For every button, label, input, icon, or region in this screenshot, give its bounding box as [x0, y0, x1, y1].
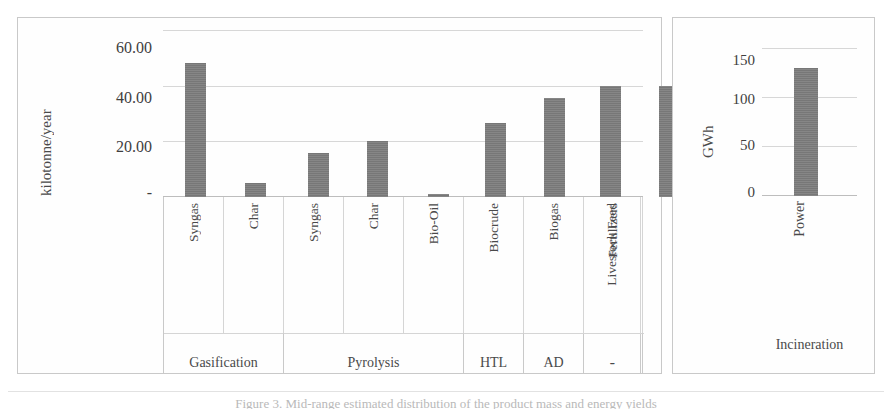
caption-divider — [8, 391, 884, 392]
col-label: Syngas — [186, 203, 202, 242]
left-ytick-20: 20.00 — [60, 139, 152, 155]
left-plot-area — [163, 30, 643, 197]
gridline-60 — [163, 30, 643, 31]
label-power: Power — [792, 201, 808, 237]
figure-caption: Figure 3. Mid-range estimated distributi… — [0, 396, 892, 409]
col-biogas: Biogas — [524, 197, 584, 333]
bar-char-pyrolysis — [367, 141, 388, 197]
group-pyrolysis: Pyrolysis — [284, 333, 464, 374]
group-dash-2: - — [583, 333, 643, 374]
right-plot-area — [762, 48, 857, 196]
left-ytick-0: - — [60, 185, 152, 201]
col-bio-oil: Bio-Oil — [404, 197, 464, 333]
gridline-150 — [762, 48, 857, 49]
left-ytick-60: 60.00 — [60, 40, 152, 56]
left-category-table: Syngas Char Syngas Char Bio-Oil Biocrude… — [163, 197, 643, 374]
gridline-40 — [163, 86, 643, 87]
col-biocrude: Biocrude — [464, 197, 524, 333]
process-group-row: Gasification Pyrolysis HTL AD - — [164, 333, 644, 374]
right-ytick-50: 50 — [700, 138, 755, 153]
group-htl: HTL — [464, 333, 524, 374]
col-label: Fertilizers — [605, 203, 621, 258]
col-fertilizers: Fertilizers — [583, 197, 643, 333]
col-label: Bio-Oil — [426, 203, 442, 244]
group-gasification: Gasification — [164, 333, 284, 374]
col-label: Syngas — [306, 203, 322, 242]
bar-livestock-feed — [600, 86, 621, 197]
bar-power — [794, 68, 818, 196]
group-incineration: Incineration — [702, 337, 892, 353]
col-char-gasification: Char — [224, 197, 284, 333]
group-ad: AD — [524, 333, 584, 374]
left-y-axis-title: kilotonne/year — [38, 46, 55, 196]
col-label: Char — [246, 203, 262, 229]
right-ytick-0: 0 — [700, 185, 755, 200]
figure-root: kilotonne/year 60.00 40.00 20.00 - Synga… — [0, 0, 892, 409]
bar-biocrude-htl — [485, 123, 506, 197]
bar-syngas-gasification — [185, 63, 206, 197]
col-label: Biogas — [546, 203, 562, 241]
bar-biogas-ad — [544, 98, 565, 197]
col-syngas-pyrolysis: Syngas — [284, 197, 344, 333]
gridline-20 — [163, 141, 643, 142]
col-label: Char — [366, 203, 382, 229]
col-label: Biocrude — [486, 203, 502, 253]
right-ytick-100: 100 — [700, 92, 755, 107]
left-ytick-40: 40.00 — [60, 90, 152, 106]
bar-syngas-pyrolysis — [308, 153, 329, 198]
right-ytick-150: 150 — [700, 53, 755, 68]
col-syngas-gasification: Syngas — [164, 197, 224, 333]
right-category-area: Power Incineration — [762, 197, 857, 374]
col-char-pyrolysis: Char — [344, 197, 404, 333]
bar-char-gasification — [245, 183, 266, 197]
